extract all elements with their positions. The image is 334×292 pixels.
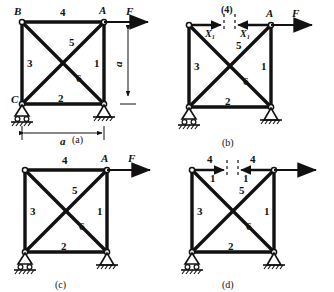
- member-label-2: 2: [61, 240, 67, 252]
- member-label-3: 3: [194, 60, 200, 72]
- node-label-b: B: [13, 5, 21, 17]
- support-left-roller: [181, 253, 203, 274]
- member-label-6: 6: [246, 220, 252, 232]
- joint-b: [19, 19, 24, 24]
- cut-member-label-4: (4): [221, 4, 233, 16]
- panel-d: 4 1 4 1 2 3 1 5 6 (d): [181, 153, 316, 291]
- member-label-3: 3: [30, 205, 36, 217]
- joint-top-left: [22, 167, 27, 172]
- support-left-roller: [178, 108, 200, 129]
- support-right-pin: [260, 108, 282, 124]
- cut-section-marks: [224, 14, 235, 32]
- redundant-label-right-x1: X₁: [239, 28, 250, 39]
- support-right-pin: [263, 253, 285, 269]
- support-right-pin: [93, 105, 115, 121]
- node-label-a: A: [265, 7, 273, 19]
- node-label-a: A: [98, 4, 106, 16]
- load-label-f: F: [127, 152, 136, 164]
- load-label-f: F: [125, 5, 134, 17]
- member-label-3: 3: [27, 57, 33, 69]
- redundant-label-left-x1: X₁: [204, 28, 215, 39]
- panel-b: A F (4) X₁ X₁ 2 3 1 5 6 (b): [178, 4, 312, 149]
- member-label-6: 6: [243, 75, 249, 87]
- cut-label-right-top-4: 4: [250, 153, 256, 165]
- node-label-c: C: [11, 93, 19, 105]
- member-label-2: 2: [225, 95, 231, 107]
- panel-caption-c: (c): [55, 279, 66, 291]
- support-left-roller: [14, 253, 36, 274]
- member-label-5: 5: [239, 184, 245, 196]
- truss-figure: B A C F 4 2 3 1 5 6 a a (a): [0, 0, 334, 292]
- panel-c: A F 4 2 3 1 5 6 (c): [14, 152, 150, 291]
- member-label-1: 1: [261, 60, 267, 72]
- member-label-6: 6: [76, 72, 82, 84]
- cut-label-left-bottom-1: 1: [210, 172, 216, 184]
- member-label-4: 4: [62, 154, 68, 166]
- panel-a: B A C F 4 2 3 1 5 6 a a (a): [11, 4, 148, 147]
- member-label-1: 1: [94, 57, 100, 69]
- member-label-5: 5: [236, 39, 242, 51]
- cut-label-left-top-4: 4: [207, 153, 213, 165]
- load-label-f: F: [291, 7, 300, 19]
- joint-top-left: [186, 22, 191, 27]
- cut-label-right-bottom-1: 1: [243, 172, 249, 184]
- member-label-5: 5: [69, 36, 75, 48]
- node-label-a: A: [100, 152, 108, 164]
- member-label-5: 5: [72, 184, 78, 196]
- panel-caption-b: (b): [222, 137, 234, 149]
- member-label-2: 2: [228, 240, 234, 252]
- dimension-label-horizontal-a: a: [60, 135, 66, 147]
- panel-caption-a: (a): [72, 134, 83, 146]
- figure-canvas: B A C F 4 2 3 1 5 6 a a (a): [0, 0, 334, 292]
- support-left-roller: [11, 105, 33, 126]
- member-label-6: 6: [79, 220, 85, 232]
- member-label-1: 1: [264, 205, 270, 217]
- dimension-label-vertical-a: a: [112, 61, 124, 67]
- member-label-3: 3: [197, 205, 203, 217]
- member-label-1: 1: [97, 205, 103, 217]
- member-label-2: 2: [58, 92, 64, 104]
- cut-section-marks: [227, 160, 238, 178]
- joint-top-left: [189, 167, 194, 172]
- support-right-pin: [96, 253, 118, 269]
- panel-caption-d: (d): [222, 279, 234, 291]
- member-label-4: 4: [60, 6, 66, 18]
